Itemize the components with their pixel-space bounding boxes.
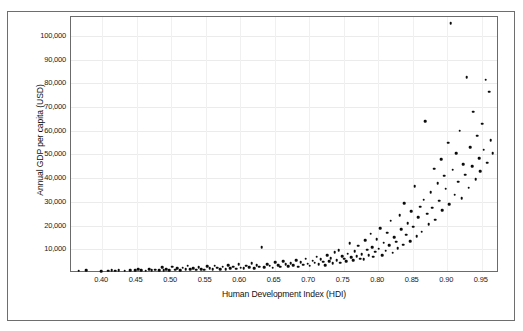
y-axis-tick-labels: 10,00020,00030,00040,00050,00060,00070,0… xyxy=(8,16,66,272)
scatter-point xyxy=(485,79,488,82)
scatter-point xyxy=(110,269,113,272)
scatter-point xyxy=(282,260,285,263)
scatter-point xyxy=(304,257,307,260)
scatter-point xyxy=(374,251,377,254)
scatter-point xyxy=(381,254,384,257)
scatter-point xyxy=(357,244,360,247)
scatter-point xyxy=(338,249,341,252)
scatter-point xyxy=(419,205,422,208)
gridline-horizontal xyxy=(71,178,497,179)
plot-area xyxy=(70,16,498,272)
scatter-point xyxy=(263,266,266,269)
scatter-point xyxy=(454,193,457,196)
scatter-point xyxy=(369,233,372,236)
y-tick-label: 70,000 xyxy=(44,102,66,111)
y-tick-label: 20,000 xyxy=(44,220,66,229)
scatter-point xyxy=(478,157,481,160)
scatter-point xyxy=(449,22,452,25)
scatter-point xyxy=(184,268,187,271)
chart-figure: Annual GDP per capita (USD) 10,00020,000… xyxy=(7,11,515,321)
scatter-point xyxy=(364,239,367,242)
scatter-point xyxy=(129,269,132,272)
scatter-point xyxy=(483,148,486,151)
scatter-point xyxy=(297,265,300,268)
y-tick-label: 10,000 xyxy=(44,244,66,253)
gridline-horizontal xyxy=(71,131,497,132)
x-axis-label: Human Development Index (HDI) xyxy=(70,289,498,299)
scatter-point xyxy=(462,163,465,166)
scatter-point xyxy=(386,231,389,234)
scatter-point xyxy=(211,268,214,271)
scatter-point xyxy=(251,262,254,265)
scatter-point xyxy=(359,257,362,260)
scatter-point xyxy=(476,134,479,137)
scatter-point xyxy=(389,220,392,223)
scatter-point xyxy=(424,120,427,123)
scatter-point xyxy=(347,252,350,255)
gridline-vertical xyxy=(344,17,345,271)
scatter-point xyxy=(329,257,332,260)
x-tick-label: 0.65 xyxy=(267,275,281,284)
gridline-vertical xyxy=(171,17,172,271)
scatter-point xyxy=(491,152,494,155)
gridline-horizontal xyxy=(71,83,497,84)
scatter-point xyxy=(488,90,491,93)
scatter-point xyxy=(379,227,382,230)
scatter-point xyxy=(372,256,375,259)
x-tick-label: 0.70 xyxy=(301,275,315,284)
scatter-point xyxy=(376,238,379,241)
scatter-point xyxy=(302,263,305,266)
scatter-point xyxy=(457,180,460,183)
scatter-point xyxy=(224,268,227,271)
scatter-point xyxy=(465,76,468,79)
scatter-point xyxy=(313,262,316,265)
scatter-point xyxy=(100,270,103,273)
x-tick-label: 0.80 xyxy=(370,275,384,284)
scatter-point xyxy=(455,152,458,155)
scatter-point xyxy=(360,253,363,256)
scatter-point xyxy=(279,266,282,269)
scatter-point xyxy=(427,223,430,226)
scatter-point xyxy=(431,207,434,210)
scatter-point xyxy=(445,188,448,191)
scatter-point xyxy=(434,218,437,221)
gridline-vertical xyxy=(413,17,414,271)
scatter-point xyxy=(248,266,251,269)
scatter-point xyxy=(140,269,143,272)
scatter-point xyxy=(479,170,482,173)
scatter-point xyxy=(391,251,394,254)
x-tick-label: 0.75 xyxy=(336,275,350,284)
scatter-point xyxy=(154,268,157,271)
scatter-point xyxy=(447,141,450,144)
scatter-point xyxy=(371,246,374,249)
scatter-point xyxy=(429,191,432,194)
gridline-vertical xyxy=(275,17,276,271)
scatter-point xyxy=(339,261,342,264)
gridline-vertical xyxy=(240,17,241,271)
scatter-point xyxy=(345,260,348,263)
scatter-point xyxy=(416,235,419,238)
scatter-point xyxy=(489,139,492,142)
scatter-point xyxy=(448,203,451,206)
x-tick-label: 0.90 xyxy=(439,275,453,284)
scatter-point xyxy=(114,269,117,272)
y-tick-label: 30,000 xyxy=(44,196,66,205)
y-tick-label: 90,000 xyxy=(44,54,66,63)
scatter-point xyxy=(362,258,365,261)
scatter-point xyxy=(203,268,206,271)
scatter-point xyxy=(353,250,356,253)
x-axis-tick-labels: 0.400.450.500.550.600.650.700.750.800.85… xyxy=(70,275,498,289)
scatter-point xyxy=(355,255,358,258)
scatter-point xyxy=(124,270,127,273)
scatter-point xyxy=(367,254,370,257)
scatter-point xyxy=(420,230,423,233)
scatter-point xyxy=(384,249,387,252)
scatter-point xyxy=(349,242,352,245)
gridline-vertical xyxy=(447,17,448,271)
scatter-point xyxy=(107,269,110,272)
scatter-point xyxy=(469,146,472,149)
scatter-point xyxy=(335,259,338,262)
scatter-point xyxy=(295,259,298,262)
scatter-point xyxy=(388,244,391,247)
scatter-point xyxy=(352,259,355,262)
